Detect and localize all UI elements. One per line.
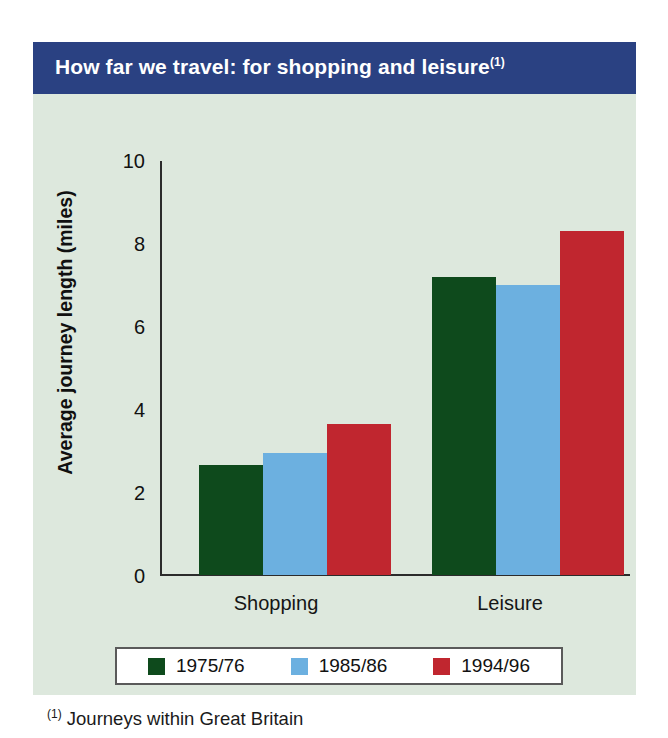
- chart-footnote: (1) Journeys within Great Britain: [47, 707, 303, 730]
- chart-title-bar: How far we travel: for shopping and leis…: [33, 42, 636, 94]
- legend-item-1985-86: 1985/86: [291, 655, 388, 677]
- bar-shopping-1985-86: [263, 453, 327, 575]
- y-tick-label-4: 4: [99, 400, 145, 420]
- chart-title-text: How far we travel: for shopping and leis…: [55, 55, 490, 78]
- legend-label-1994-96: 1994/96: [461, 655, 530, 677]
- legend-swatch-icon-1985-86: [291, 658, 308, 675]
- legend-item-1975-76: 1975/76: [148, 655, 245, 677]
- y-tick-label-6: 6: [99, 317, 145, 337]
- title-footnote-marker: (1): [490, 55, 505, 69]
- legend-swatch-icon-1975-76: [148, 658, 165, 675]
- bar-leisure-1994-96: [560, 231, 624, 575]
- bar-leisure-1985-86: [496, 285, 560, 575]
- x-category-label-leisure: Leisure: [395, 592, 625, 615]
- bars-layer: [162, 161, 630, 575]
- footnote-marker: (1): [47, 707, 62, 721]
- legend-swatch-icon-1994-96: [433, 658, 450, 675]
- legend-label-1975-76: 1975/76: [176, 655, 245, 677]
- bar-leisure-1975-76: [432, 277, 496, 575]
- y-axis-title: Average journey length (miles): [54, 168, 77, 498]
- chart-legend: 1975/76 1985/86 1994/96: [115, 647, 563, 685]
- page-title: How far we travel: for shopping and leis…: [55, 55, 505, 79]
- bar-shopping-1975-76: [199, 465, 263, 575]
- footnote-text: Journeys within Great Britain: [67, 708, 304, 729]
- plot-area: Average journey length (miles) 10 8 6 4 …: [33, 94, 636, 695]
- bar-shopping-1994-96: [327, 424, 391, 575]
- chart-figure: How far we travel: for shopping and leis…: [33, 42, 636, 695]
- y-tick-label-10: 10: [99, 151, 145, 171]
- y-tick-label-0: 0: [99, 566, 145, 586]
- legend-item-1994-96: 1994/96: [433, 655, 530, 677]
- x-category-label-shopping: Shopping: [161, 592, 391, 615]
- legend-label-1985-86: 1985/86: [319, 655, 388, 677]
- y-tick-label-8: 8: [99, 234, 145, 254]
- y-tick-label-2: 2: [99, 483, 145, 503]
